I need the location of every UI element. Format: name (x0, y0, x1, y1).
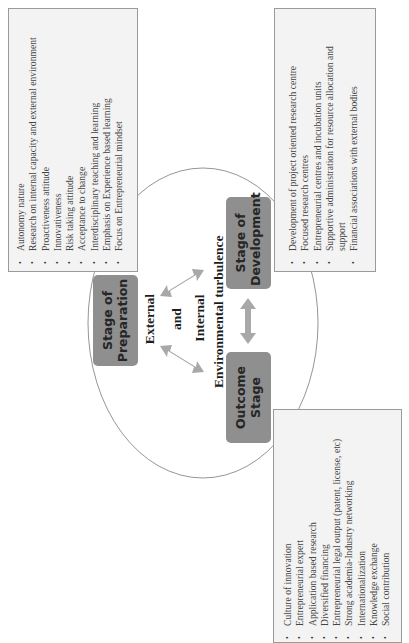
development-list-box: Development of project oriented research… (274, 8, 376, 272)
center-label-and: and (169, 304, 185, 334)
stage-outcome-box: Outcome Stage (226, 352, 271, 443)
stage-development-line2: Development (248, 200, 263, 286)
list-item: Interdisciplinary teaching and learning (89, 15, 101, 265)
list-item: Diversified financing (319, 410, 331, 640)
list-item: Financial associations with external bod… (348, 15, 360, 265)
stage-outcome-line1: Outcome (233, 355, 248, 440)
list-item: Research on internal capacity and extern… (27, 15, 39, 265)
list-item: Focus on Entrepreneurial mindset (113, 15, 125, 265)
stage-development-box: Stage of Development (226, 197, 271, 289)
stage-preparation-line2: Preparation (115, 278, 130, 363)
list-item: Innovativeness (52, 15, 64, 265)
list-item: Risk taking attitude (64, 15, 76, 265)
preparation-list-box: Autonomy nature Research on internal cap… (8, 8, 138, 272)
list-item: Supportive administration for resource a… (324, 15, 336, 265)
list-item: Entrepreneurial centres and incubation u… (312, 15, 324, 265)
list-item: Proactiveness attitude (40, 15, 52, 265)
list-item: Entrepreneurial expert (294, 410, 306, 640)
list-item: Knowledge exchange (368, 410, 380, 640)
list-item: Social contribution (380, 410, 392, 640)
preparation-list: Autonomy nature Research on internal cap… (15, 15, 126, 265)
outcome-list: Culture of innovation Entrepreneurial ex… (282, 410, 393, 640)
list-item: Culture of innovation (282, 410, 294, 640)
center-label-external: External (142, 290, 158, 348)
outcome-list-box: Culture of innovation Entrepreneurial ex… (273, 409, 402, 643)
stage-preparation-line1: Stage of (100, 278, 115, 363)
list-item: Internationalization (356, 410, 368, 640)
list-item: Entrepreneurial legal output (patent, li… (331, 410, 343, 640)
list-item: Focused research centres (299, 15, 311, 265)
double-arrow-development-outcome (240, 298, 256, 344)
development-list: Development of project oriented research… (287, 15, 361, 265)
stage-development-line1: Stage of (233, 200, 248, 286)
list-item: Acceptance to change (76, 15, 88, 265)
list-item-continuation: support (336, 15, 348, 265)
list-item: Emphasis on Experience based learning (101, 15, 113, 265)
list-item: Autonomy nature (15, 15, 27, 265)
stage-outcome-line2: Stage (248, 355, 263, 440)
list-item: Application based research (307, 410, 319, 640)
list-item: Development of project oriented research… (287, 15, 299, 265)
list-item: Strong academia-Industry networking (343, 410, 355, 640)
center-label-internal: Internal (192, 290, 208, 346)
double-arrow-preparation-outcome (160, 345, 204, 373)
center-label-environmental-turbulence: Environmental turbulence (211, 238, 227, 388)
stage-preparation-box: Stage of Preparation (93, 275, 138, 366)
